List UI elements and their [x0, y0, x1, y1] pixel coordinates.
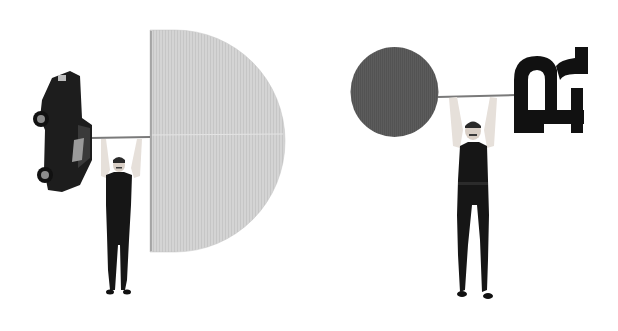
letter-r-weight	[514, 47, 588, 133]
barbell-bar-left	[90, 137, 150, 138]
circle-weight	[351, 47, 439, 137]
car-weight	[33, 71, 92, 192]
right-scene	[351, 47, 589, 299]
barbell-bar-right	[438, 95, 516, 97]
strongman-left	[101, 139, 142, 295]
left-scene	[33, 30, 285, 295]
half-disc-weight	[150, 30, 285, 252]
strongman-right	[449, 97, 497, 299]
collage-image	[0, 0, 618, 331]
